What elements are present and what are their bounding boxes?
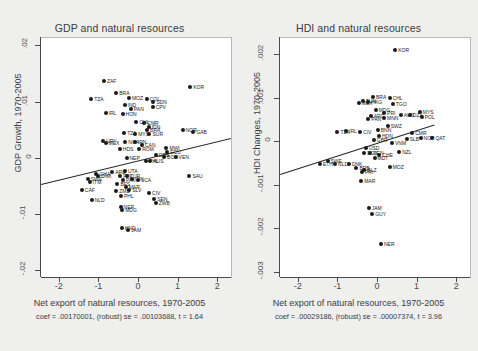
data-point xyxy=(372,138,376,142)
data-point xyxy=(119,194,123,198)
data-point xyxy=(151,100,155,104)
data-point-label: SLB xyxy=(410,137,419,142)
data-point xyxy=(120,208,124,212)
data-point-label: SUR xyxy=(152,132,163,137)
data-point xyxy=(354,166,358,170)
data-point xyxy=(88,180,92,184)
data-point xyxy=(181,128,185,132)
y-tick-label-hdi: .002 xyxy=(235,48,269,57)
data-point-label: SWZ xyxy=(391,124,402,129)
x-tick-label-hdi: 0 xyxy=(362,281,392,291)
data-point-label: MDG xyxy=(125,208,137,213)
data-point-label: NER xyxy=(384,242,395,247)
data-point xyxy=(154,201,158,205)
y-tick-label-gdp: -.02 xyxy=(0,264,30,273)
data-point-label: HON xyxy=(126,112,137,117)
regression-note-gdp: coef = .00170001, (robust) se = .0010368… xyxy=(0,312,239,321)
data-point xyxy=(123,140,127,144)
data-point-label: MNN xyxy=(387,116,398,121)
y-tick-gdp xyxy=(35,214,40,215)
data-point-label: ZWB xyxy=(159,201,170,206)
y-tick-label-hdi: 0 xyxy=(235,135,269,144)
data-point xyxy=(90,198,94,202)
x-tick-label-hdi: -2 xyxy=(283,281,313,291)
data-point-label: BNN xyxy=(381,128,392,133)
data-point-label: KOR xyxy=(193,85,204,90)
y-tick-label-gdp: .01 xyxy=(0,96,30,105)
data-point xyxy=(359,179,363,183)
y-tick-hdi xyxy=(274,228,279,229)
data-point xyxy=(187,174,191,178)
data-point xyxy=(133,140,137,144)
data-point-label: SAU xyxy=(192,174,202,179)
data-point xyxy=(136,178,140,182)
data-point xyxy=(393,48,397,52)
data-point-label: TGO xyxy=(396,102,407,107)
data-point xyxy=(104,141,108,145)
data-point-label: ETH xyxy=(323,162,333,167)
data-point xyxy=(388,96,392,100)
data-point-label: IRL xyxy=(109,111,117,116)
data-point xyxy=(130,177,134,181)
data-point xyxy=(373,156,377,160)
data-point-label: CPV xyxy=(156,105,166,110)
y-tick-gdp xyxy=(35,102,40,103)
data-point xyxy=(118,147,122,151)
data-point xyxy=(147,132,151,136)
panel-gdp: GDP and natural resources ZAFKORBRAMOZTZ… xyxy=(0,0,239,351)
data-point xyxy=(419,136,423,140)
data-point xyxy=(154,153,158,157)
y-tick-hdi xyxy=(274,272,279,273)
y-axis-hdi xyxy=(279,37,280,277)
x-tick-label-hdi: 2 xyxy=(441,281,471,291)
data-point xyxy=(379,242,383,246)
data-point-label: POL xyxy=(425,115,435,120)
data-point-label: JAM xyxy=(131,228,141,233)
panel-title-gdp: GDP and natural resources xyxy=(0,22,239,34)
x-axis-hdi xyxy=(280,277,470,278)
x-tick-label-gdp: -2 xyxy=(44,281,74,291)
data-point-label: MOZ xyxy=(393,165,404,170)
data-point xyxy=(397,150,401,154)
x-tick-label-gdp: -1 xyxy=(83,281,113,291)
data-point-label: PHL xyxy=(124,194,134,199)
data-point xyxy=(335,130,339,134)
panel-title-hdi: HDI and natural resources xyxy=(239,22,478,34)
data-point-label: AUS xyxy=(153,159,163,164)
data-point xyxy=(174,155,178,159)
regression-note-hdi: coef = .00029186, (robust) se = .0000737… xyxy=(239,312,478,321)
data-point-label: MOZ xyxy=(132,96,143,101)
data-point xyxy=(367,206,371,210)
y-tick-hdi xyxy=(274,54,279,55)
data-point-label: CIV xyxy=(363,130,371,135)
data-point-label: ZAF xyxy=(107,79,116,84)
data-point xyxy=(390,141,394,145)
data-point xyxy=(125,156,129,160)
data-point xyxy=(360,170,364,174)
data-point xyxy=(399,113,403,117)
data-point-label: PAN xyxy=(371,117,381,122)
data-point xyxy=(366,117,370,121)
y-tick-label-hdi: -.003 xyxy=(235,266,269,275)
data-point-label: GUY xyxy=(375,212,386,217)
data-point xyxy=(114,189,118,193)
data-point-label: IRL xyxy=(349,129,357,134)
data-point xyxy=(151,105,155,109)
data-point-label: CAF xyxy=(85,188,95,193)
data-point xyxy=(134,120,138,124)
plot-area-gdp: ZAFKORBRAMOZTZACOLSDNINDCPVPANIRLHONCHLC… xyxy=(41,37,232,278)
data-point xyxy=(80,188,84,192)
data-point-label: HDS xyxy=(123,147,134,152)
data-point-label: MDT xyxy=(378,156,389,161)
x-tick-label-hdi: 1 xyxy=(402,281,432,291)
data-point xyxy=(391,102,395,106)
x-tick-label-hdi: -1 xyxy=(322,281,352,291)
data-point xyxy=(376,128,380,132)
data-point xyxy=(333,162,337,166)
data-point-label: ITM xyxy=(93,180,102,185)
panel-hdi: HDI and natural resources KORBRACHLTUNHK… xyxy=(239,0,478,351)
y-tick-gdp xyxy=(35,45,40,46)
data-point xyxy=(123,169,127,173)
y-tick-hdi xyxy=(274,141,279,142)
data-point xyxy=(127,96,131,100)
